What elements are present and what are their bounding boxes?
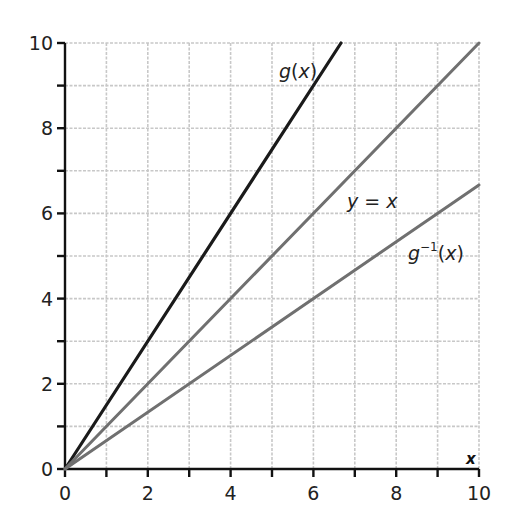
series-label-inverse: g−1(x) <box>408 240 464 264</box>
series-label-g: g(x) <box>279 60 317 82</box>
x-tick-label: 10 <box>467 482 491 504</box>
line-chart: 02468100246810 g(x) y = x g−1(x) x <box>0 0 508 529</box>
series-label-identity: y = x <box>346 190 398 212</box>
y-tick-label: 6 <box>41 202 53 224</box>
x-tick-label: 4 <box>225 482 237 504</box>
y-tick-label: 10 <box>29 32 53 54</box>
y-tick-label: 0 <box>41 458 53 480</box>
x-tick-label: 6 <box>307 482 319 504</box>
y-tick-label: 8 <box>41 117 53 139</box>
y-tick-label: 4 <box>41 288 53 310</box>
x-tick-label: 0 <box>59 482 71 504</box>
x-tick-label: 8 <box>390 482 402 504</box>
y-tick-label: 2 <box>41 373 53 395</box>
x-axis-label: x <box>465 450 477 468</box>
x-tick-label: 2 <box>142 482 154 504</box>
